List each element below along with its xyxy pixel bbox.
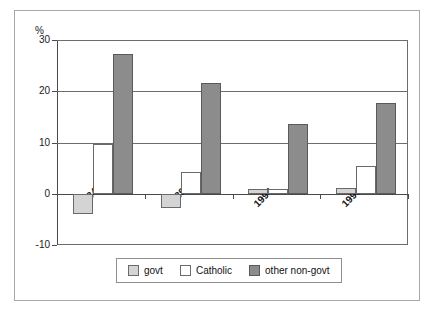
y-tick-label-30: 30 xyxy=(39,35,50,45)
y-tick-label-10: 10 xyxy=(39,138,50,148)
legend-label: govt xyxy=(144,266,163,276)
chart-figure: % 3020100-10 1984198919941999 govtCathol… xyxy=(0,0,435,313)
bar-1984-other-non-govt xyxy=(113,54,133,194)
y-tick-label-0: 0 xyxy=(44,189,50,199)
x-tick-mark-1 xyxy=(145,194,146,199)
y-tick-mark--10 xyxy=(52,245,57,246)
bar-1989-govt xyxy=(161,194,181,208)
legend-entry-other-non-govt[interactable]: other non-govt xyxy=(249,265,330,276)
bar-1999-other-non-govt xyxy=(376,103,396,194)
legend-entry-catholic[interactable]: Catholic xyxy=(180,265,232,276)
x-tick-mark-0 xyxy=(57,194,58,199)
legend-swatch-icon-catholic xyxy=(180,265,191,276)
y-tick-label-20: 20 xyxy=(39,86,50,96)
bar-1989-other-non-govt xyxy=(201,83,221,194)
legend-label: Catholic xyxy=(196,266,232,276)
bar-1999-catholic xyxy=(356,166,376,194)
bar-1999-govt xyxy=(336,188,356,194)
bars-layer xyxy=(57,40,408,245)
chart-legend: govtCatholicother non-govt xyxy=(116,258,342,283)
bar-1984-govt xyxy=(73,194,93,215)
x-tick-mark-3 xyxy=(320,194,321,199)
legend-swatch-icon-govt xyxy=(128,265,139,276)
legend-swatch-icon-other-non-govt xyxy=(249,265,260,276)
y-tick-label--10: -10 xyxy=(36,240,50,250)
x-tick-mark-2 xyxy=(233,194,234,199)
plot-wrapper: 3020100-10 1984198919941999 xyxy=(57,40,408,245)
legend-entry-govt[interactable]: govt xyxy=(128,265,163,276)
x-tick-mark-end xyxy=(408,194,409,199)
legend-label: other non-govt xyxy=(265,266,330,276)
bar-1994-catholic xyxy=(268,189,288,194)
bar-1994-govt xyxy=(248,189,268,194)
bar-1984-catholic xyxy=(93,144,113,194)
bar-1989-catholic xyxy=(181,172,201,194)
bar-1994-other-non-govt xyxy=(288,124,308,194)
